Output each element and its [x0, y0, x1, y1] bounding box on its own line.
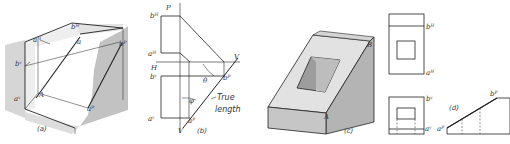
- label-a-lower: a: [77, 38, 81, 46]
- panel-c-isometric-block: B A (c): [268, 31, 374, 135]
- panel-b-orthographic: P bᴴ aᴴ H V bᵛ θ bᴾ φ True length aᵛ aᴾ …: [148, 3, 241, 135]
- label-theta: θ: [203, 77, 208, 85]
- label-a-p: aᴾ: [188, 117, 196, 125]
- label-phi: φ: [189, 97, 194, 105]
- label-a-v: aᵛ: [148, 115, 155, 123]
- label-true: True: [217, 93, 235, 102]
- label-length: length: [215, 105, 241, 114]
- technical-drawing-figure: aᴴ bᴴ a bᵛ bᴾ A aᵛ aᴾ (a): [0, 0, 510, 144]
- left-wall-shade: [5, 40, 25, 118]
- caption-b: (b): [197, 127, 207, 135]
- label-a-v: aᵛ: [14, 95, 21, 103]
- label-H: H: [150, 64, 158, 72]
- label-b-h: bᴴ: [71, 23, 79, 31]
- label-A: A: [38, 91, 44, 99]
- caption-a: (a): [37, 125, 47, 133]
- label-V-top: V: [234, 53, 240, 61]
- label-a-h: aᴴ: [148, 50, 156, 58]
- label-P: P: [165, 4, 171, 12]
- label-b-p: bᴾ: [490, 90, 498, 98]
- label-a-p: aᴾ: [87, 105, 95, 113]
- caption-d: (d): [449, 104, 459, 112]
- label-b-v: bᵛ: [426, 95, 433, 103]
- label-b-h: bᴴ: [150, 12, 158, 20]
- label-a-h: aᴴ: [33, 36, 41, 44]
- label-b-v: bᵛ: [15, 60, 22, 68]
- label-B: B: [366, 41, 372, 49]
- label-a-v: aᵛ: [425, 125, 432, 133]
- label-b-p: bᴾ: [119, 40, 127, 48]
- label-a-p: aᴾ: [437, 125, 445, 133]
- label-b-h: bᴴ: [426, 23, 434, 31]
- label-b-p: bᴾ: [223, 74, 231, 82]
- label-a-h: aᴴ: [426, 69, 434, 77]
- floor-shade: [25, 112, 80, 134]
- panel-a-projection-box: aᴴ bᴴ a bᵛ bᴾ A aᵛ aᴾ (a): [5, 23, 128, 134]
- label-b-v: bᵛ: [150, 73, 157, 81]
- panel-d-multiview: bᴴ aᴴ bᵛ aᵛ aᴾ bᴾ (d): [389, 14, 510, 134]
- label-V-bottom: V: [178, 127, 184, 135]
- caption-c: (c): [344, 127, 354, 135]
- label-A: A: [323, 113, 329, 121]
